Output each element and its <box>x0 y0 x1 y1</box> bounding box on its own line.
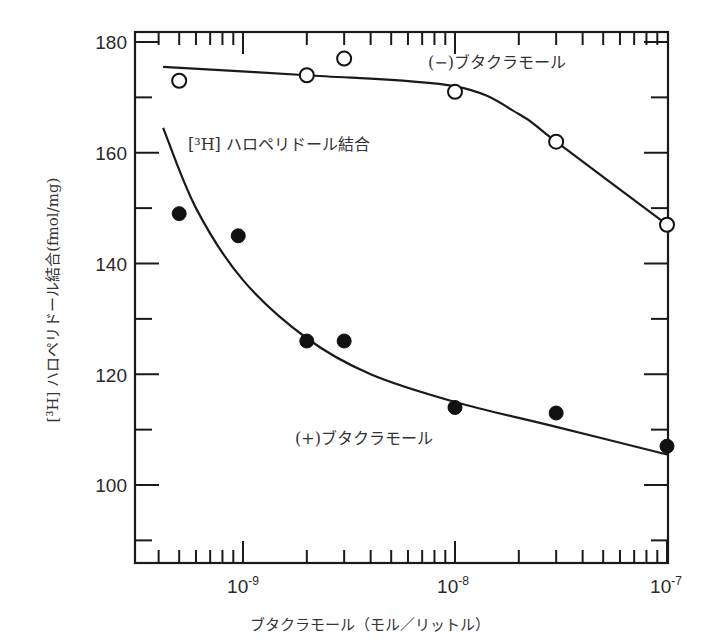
open-circle-data-point <box>448 85 462 99</box>
series-layer <box>163 52 674 455</box>
axis-ticks <box>135 32 668 563</box>
y-tick-160: 160 <box>95 143 127 164</box>
open-circle-data-point <box>660 218 674 232</box>
open-circle-data-point <box>549 135 563 149</box>
y-tick-labels: 180 160 140 120 100 <box>95 32 127 496</box>
x-tick-labels: 10-9 10-8 10-7 <box>227 574 682 597</box>
y-tick-120: 120 <box>95 365 127 386</box>
x-tick-1e-8: 10-8 <box>437 574 469 597</box>
y-axis-title: [³H] ハロペリドール結合(fmol/mg) <box>44 178 62 423</box>
filled-circle-data-point <box>660 439 674 453</box>
filled-circle-data-point <box>172 207 186 221</box>
y-tick-100: 100 <box>95 475 127 496</box>
inner-title-label: [³H] ハロペリドール結合 <box>188 135 370 154</box>
open-circle-data-point <box>300 68 314 82</box>
y-tick-180: 180 <box>95 32 127 53</box>
y-tick-140: 140 <box>95 254 127 275</box>
plus-fit-curve <box>163 128 667 455</box>
open-circle-data-point <box>172 74 186 88</box>
filled-circle-data-point <box>549 406 563 420</box>
x-tick-1e-9: 10-9 <box>227 574 259 597</box>
minus-butaclamol-label: (−)ブタクラモール <box>428 53 566 72</box>
x-tick-1e-7: 10-7 <box>650 574 682 597</box>
filled-circle-data-point <box>231 229 245 243</box>
filled-circle-data-point <box>448 400 462 414</box>
filled-circle-data-point <box>300 334 314 348</box>
x-axis-title: ブタクラモール（モル／リットル） <box>250 616 490 634</box>
plot-frame <box>135 32 668 563</box>
plus-butaclamol-label: (+)ブタクラモール <box>295 429 433 448</box>
filled-circle-data-point <box>337 334 351 348</box>
binding-chart: 180 160 140 120 100 10-9 10-8 10-7 ブタクラモ… <box>0 0 715 643</box>
open-circle-data-point <box>337 52 351 66</box>
